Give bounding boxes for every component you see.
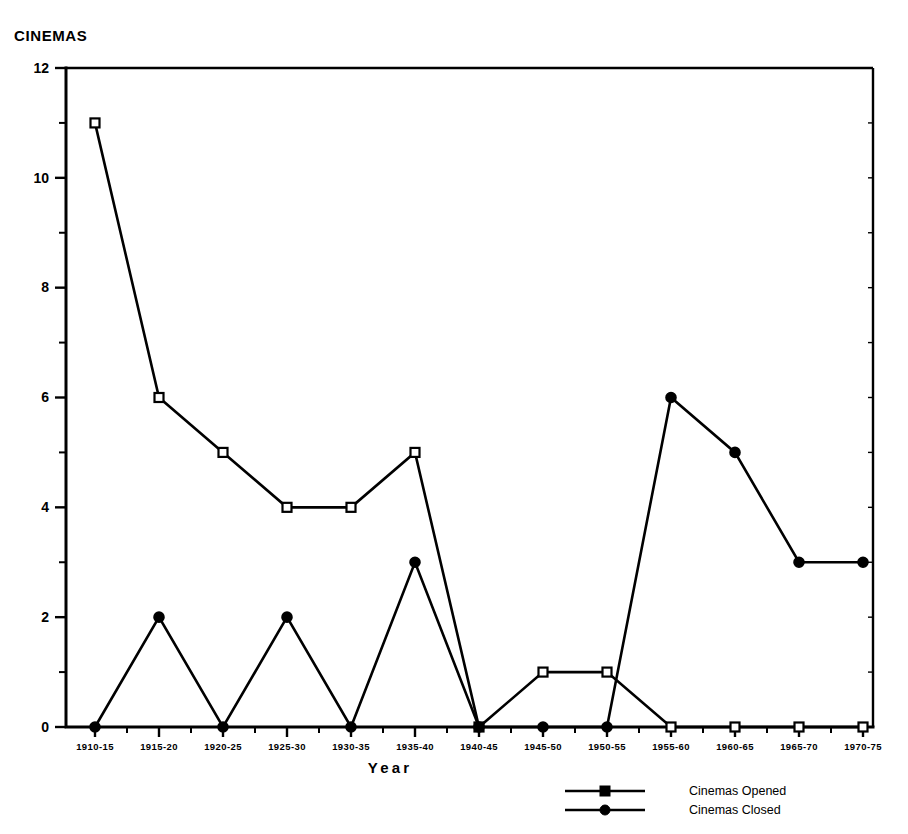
chart-plot-area: 024681012 1910-151915-201920-251925-3019… bbox=[0, 0, 908, 834]
data-point-marker-square bbox=[155, 393, 164, 402]
data-point-marker-square bbox=[219, 448, 228, 457]
x-axis-tick-label: 1925-30 bbox=[268, 741, 306, 752]
data-point-marker-circle bbox=[474, 722, 484, 732]
legend-marker-circle bbox=[600, 805, 610, 815]
legend-label: Cinemas Opened bbox=[689, 784, 786, 798]
chart-series bbox=[90, 118, 868, 732]
y-axis-tick-label: 12 bbox=[33, 60, 49, 76]
data-point-marker-circle bbox=[858, 557, 868, 567]
legend-marker-square bbox=[601, 787, 610, 796]
data-point-marker-square bbox=[731, 723, 740, 732]
data-point-marker-square bbox=[347, 503, 356, 512]
chart-axes bbox=[66, 68, 873, 727]
data-point-marker-circle bbox=[538, 722, 548, 732]
data-point-marker-square bbox=[667, 723, 676, 732]
y-axis-tick-label: 0 bbox=[41, 719, 49, 735]
x-axis-tick-label: 1945-50 bbox=[524, 741, 562, 752]
cinemas-line-chart: CINEMAS 024681012 1910-151915-201920-251… bbox=[0, 0, 908, 834]
data-point-marker-circle bbox=[90, 722, 100, 732]
data-point-marker-square bbox=[539, 668, 548, 677]
x-axis-tick-label: 1915-20 bbox=[140, 741, 178, 752]
legend-item-cinemas-opened: Cinemas Opened bbox=[565, 784, 786, 798]
x-axis-tick-label: 1950-55 bbox=[588, 741, 626, 752]
chart-legend: Cinemas OpenedCinemas Closed bbox=[565, 784, 786, 817]
legend-label: Cinemas Closed bbox=[689, 803, 781, 817]
x-axis-tick-label: 1940-45 bbox=[460, 741, 498, 752]
x-axis-tick-label: 1965-70 bbox=[780, 741, 818, 752]
series-polyline bbox=[95, 123, 863, 727]
data-point-marker-circle bbox=[794, 557, 804, 567]
data-point-marker-square bbox=[283, 503, 292, 512]
data-point-marker-circle bbox=[730, 447, 740, 457]
data-point-marker-square bbox=[859, 723, 868, 732]
series-cinemas-closed bbox=[90, 393, 868, 733]
x-axis-tick-label: 1960-65 bbox=[716, 741, 754, 752]
data-point-marker-circle bbox=[666, 393, 676, 403]
y-axis-tick-label: 4 bbox=[41, 499, 49, 515]
x-axis-tick-label: 1935-40 bbox=[396, 741, 434, 752]
data-point-marker-circle bbox=[282, 612, 292, 622]
series-cinemas-opened bbox=[91, 118, 868, 731]
x-axis-title: Year bbox=[0, 759, 908, 776]
y-axis-tick-label: 6 bbox=[41, 389, 49, 405]
y-axis-tick-label: 2 bbox=[41, 609, 49, 625]
data-point-marker-square bbox=[603, 668, 612, 677]
x-axis-tick-label: 1920-25 bbox=[204, 741, 242, 752]
x-axis-tick-label: 1930-35 bbox=[332, 741, 370, 752]
y-axis-tick-label: 10 bbox=[33, 170, 49, 186]
legend-item-cinemas-closed: Cinemas Closed bbox=[565, 803, 781, 817]
x-axis-tick-label: 1970-75 bbox=[844, 741, 882, 752]
data-point-marker-circle bbox=[346, 722, 356, 732]
x-axis-tick-label: 1910-15 bbox=[76, 741, 114, 752]
x-axis-tick-label: 1955-60 bbox=[652, 741, 690, 752]
series-polyline bbox=[95, 398, 863, 728]
data-point-marker-circle bbox=[410, 557, 420, 567]
y-axis-tick-label: 8 bbox=[41, 279, 49, 295]
data-point-marker-square bbox=[411, 448, 420, 457]
data-point-marker-circle bbox=[602, 722, 612, 732]
data-point-marker-square bbox=[795, 723, 804, 732]
x-axis-title-label: Year bbox=[368, 759, 413, 776]
data-point-marker-circle bbox=[154, 612, 164, 622]
data-point-marker-square bbox=[91, 118, 100, 127]
data-point-marker-circle bbox=[218, 722, 228, 732]
